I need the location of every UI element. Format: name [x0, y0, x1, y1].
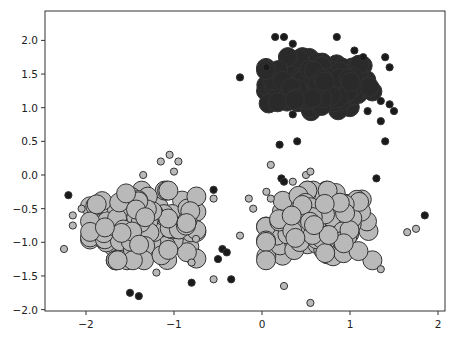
y-tick-label: −2.0 [13, 304, 39, 316]
y-tick-label: 1.0 [21, 102, 38, 114]
data-point [382, 54, 389, 61]
figure-background [0, 0, 452, 343]
data-point [192, 235, 199, 242]
data-point [250, 205, 257, 212]
data-point [157, 158, 164, 165]
data-point [130, 235, 149, 254]
data-point [386, 64, 393, 71]
data-point [282, 206, 301, 225]
scatter-chart: −2−1012 −2.0−1.5−1.0−0.50.00.51.01.52.0 [0, 0, 452, 343]
data-point [341, 72, 360, 91]
data-point [377, 97, 384, 104]
data-point [280, 282, 287, 289]
data-point [289, 178, 296, 185]
data-point [268, 93, 287, 112]
x-tick-label: 1 [347, 318, 354, 330]
data-point [307, 299, 314, 306]
data-point [364, 108, 371, 115]
data-point [126, 289, 133, 296]
data-point [140, 171, 147, 178]
data-point [257, 251, 276, 270]
data-point [210, 276, 217, 283]
y-tick-label: 0.0 [21, 169, 38, 181]
data-point [377, 118, 384, 125]
data-point [289, 111, 296, 118]
data-point [236, 74, 243, 81]
data-point [404, 229, 411, 236]
data-point [289, 40, 296, 47]
data-point [245, 195, 252, 202]
data-point [214, 256, 221, 263]
data-point [159, 240, 178, 259]
data-point [153, 269, 160, 276]
y-tick-label: 1.5 [21, 68, 38, 80]
data-point [87, 195, 106, 214]
data-point [360, 54, 367, 61]
data-point [272, 33, 279, 40]
x-tick-label: −2 [78, 318, 93, 330]
data-point [276, 141, 283, 148]
data-point [390, 108, 397, 115]
data-point [95, 218, 114, 237]
data-point [223, 249, 230, 256]
data-point [228, 276, 235, 283]
y-tick-label: −1.5 [13, 270, 39, 282]
data-point [65, 192, 72, 199]
data-point [188, 279, 195, 286]
data-point [177, 214, 196, 233]
data-point [263, 64, 270, 71]
data-point [386, 101, 393, 108]
data-point [307, 168, 314, 175]
data-point [257, 232, 276, 251]
data-point [294, 138, 301, 145]
y-tick-label: −1.0 [13, 236, 39, 248]
data-point [333, 33, 340, 40]
data-point [267, 161, 274, 168]
data-point [303, 89, 322, 108]
y-tick-label: 2.0 [21, 34, 38, 46]
data-point [373, 175, 380, 182]
data-point [188, 259, 195, 266]
data-point [377, 266, 384, 273]
x-tick-label: −1 [166, 318, 181, 330]
data-point [412, 225, 419, 232]
data-point [135, 293, 142, 300]
data-point [136, 208, 155, 227]
data-point [175, 158, 182, 165]
data-point [112, 223, 131, 242]
data-point [263, 188, 270, 195]
data-point [280, 178, 287, 185]
data-point [236, 232, 243, 239]
data-point [315, 194, 334, 213]
data-point [170, 168, 177, 175]
data-point [210, 195, 217, 202]
data-point [286, 228, 305, 247]
data-point [210, 186, 217, 193]
data-point [267, 195, 274, 202]
data-point [316, 244, 335, 263]
y-tick-label: 0.5 [21, 135, 38, 147]
data-point [285, 91, 304, 110]
data-point [108, 251, 127, 270]
x-tick-label: 0 [259, 318, 266, 330]
data-point [60, 245, 67, 252]
data-point [315, 72, 334, 91]
data-point [166, 151, 173, 158]
data-point [305, 216, 324, 235]
data-point [69, 212, 76, 219]
data-point [351, 47, 358, 54]
data-point [78, 205, 85, 212]
x-tick-label: 2 [435, 318, 442, 330]
data-point [159, 181, 178, 200]
data-point [421, 212, 428, 219]
data-point [382, 138, 389, 145]
data-point [280, 33, 287, 40]
data-point [69, 222, 76, 229]
y-tick-label: −0.5 [13, 203, 39, 215]
